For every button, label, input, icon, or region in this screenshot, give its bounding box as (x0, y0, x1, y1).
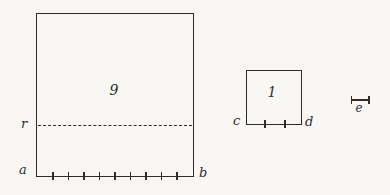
tick-mark (130, 172, 132, 180)
tick-mark (99, 172, 101, 180)
point-label-d: d (305, 115, 313, 128)
small-square-area-label: 1 (261, 86, 283, 99)
dashed-line-r (38, 125, 192, 126)
tick-mark (83, 172, 85, 180)
point-label-a: a (19, 163, 27, 176)
tick-mark (114, 172, 116, 180)
unit-segment-right-tick (368, 96, 370, 104)
tick-mark (145, 172, 147, 180)
point-label-e: e (352, 102, 366, 115)
tick-mark (284, 120, 286, 128)
point-label-b: b (199, 166, 207, 179)
tick-mark (68, 172, 70, 180)
point-label-r: r (21, 117, 27, 130)
tick-mark (264, 120, 266, 128)
small-square-bottom-ticks (246, 120, 302, 129)
point-label-c: c (233, 114, 240, 127)
tick-mark (52, 172, 54, 180)
tick-mark (161, 172, 163, 180)
large-square-area-label: 9 (103, 84, 125, 97)
figure-canvas: 9 r a b 1 c d e (0, 0, 390, 195)
tick-mark (176, 172, 178, 180)
large-square-bottom-ticks (36, 172, 194, 181)
